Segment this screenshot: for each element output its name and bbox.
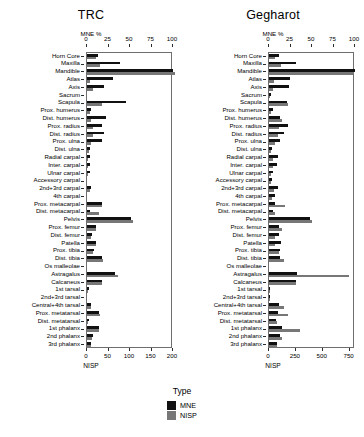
y-axis-tick (81, 56, 84, 57)
y-axis-tick (81, 212, 84, 213)
legend-entry[interactable]: MNE (167, 401, 197, 410)
axis-tick (322, 348, 323, 351)
bar-nisp (269, 282, 296, 285)
y-axis-category-label: Ulnar carpal (180, 170, 262, 176)
y-axis-tick (263, 173, 266, 174)
y-axis-category-label: Pelvis (180, 216, 262, 222)
y-axis-tick (263, 149, 266, 150)
y-axis-tick (263, 134, 266, 135)
y-axis-tick (81, 235, 84, 236)
bar-nisp (269, 337, 282, 340)
axis-bottom-label-trc: NISP (0, 362, 182, 369)
y-axis-tick (81, 134, 84, 135)
y-axis-category-label: Accessory carpal (180, 177, 262, 183)
bars-gegharot (269, 53, 353, 347)
y-axis-tick (81, 344, 84, 345)
y-axis-category-label: Dist. metacarpal (0, 208, 80, 214)
bar-nisp (269, 88, 273, 91)
bar-nisp (269, 212, 275, 215)
bar-nisp (87, 228, 96, 231)
y-axis-category-label: Dist. tibia (180, 255, 262, 261)
y-axis-tick (81, 243, 84, 244)
bar-nisp (87, 158, 88, 161)
legend-entry[interactable]: NISP (167, 411, 197, 420)
y-axis-category-label: Inter. carpal (0, 162, 80, 168)
y-axis-tick (263, 321, 266, 322)
y-axis-tick (263, 142, 266, 143)
y-axis-tick (81, 95, 84, 96)
axis-tick-label: 250 (282, 352, 308, 359)
bar-nisp (269, 244, 275, 247)
bar-nisp (87, 166, 88, 169)
y-axis-tick (81, 103, 84, 104)
y-axis-category-label: Prox. metatarsal (0, 310, 80, 316)
y-axis-category-label: 3rd phalanx (180, 341, 262, 347)
y-axis-tick (81, 251, 84, 252)
y-axis-category-label: Prox. radius (180, 123, 262, 129)
y-axis-category-label: 2nd+3rd tarsal (0, 294, 80, 300)
y-axis-tick (81, 173, 84, 174)
y-axis-category-label: Ulnar carpal (0, 170, 80, 176)
y-axis-tick (81, 165, 84, 166)
bar-nisp (269, 166, 273, 169)
legend-title: Type (0, 386, 364, 396)
legend-label: MNE (180, 401, 196, 410)
y-axis-tick (81, 71, 84, 72)
y-axis-tick (81, 181, 84, 182)
y-axis-tick (81, 329, 84, 330)
y-axis-tick (81, 149, 84, 150)
y-axis-category-label: Calcaneus (180, 279, 262, 285)
axis-tick (172, 348, 173, 351)
y-axis-category-label: Dist. tibia (0, 255, 80, 261)
bar-nisp (269, 103, 288, 106)
y-axis-labels-gegharot: Horn CoreMaxillaMandibleAtlasAxisSacrumS… (182, 52, 266, 348)
y-axis-category-label: Prox. humerus (180, 107, 262, 113)
figure-root: TRC MNE % 0255075100 Horn CoreMaxillaMan… (0, 0, 364, 437)
y-axis-category-label: Dist. humerus (180, 115, 262, 121)
bar-nisp (269, 119, 282, 122)
y-axis-tick (263, 95, 266, 96)
bar-nisp (87, 236, 91, 239)
y-axis-tick (263, 305, 266, 306)
y-axis-category-label: Dist. radius (180, 131, 262, 137)
y-axis-category-label: Astragalus (0, 271, 80, 277)
bar-nisp (269, 127, 279, 130)
bottom-tick-labels-gegharot: 0250500750 (268, 352, 354, 361)
axis-tick (268, 44, 269, 47)
y-axis-category-label: Dist. femur (180, 232, 262, 238)
y-axis-category-label: Inter. carpal (180, 162, 262, 168)
y-axis-tick (81, 64, 84, 65)
legend-label: NISP (180, 411, 197, 420)
bar-nisp (269, 64, 281, 67)
y-axis-category-label: 2nd phalanx (0, 333, 80, 339)
bars-trc (87, 53, 171, 347)
y-axis-tick (263, 336, 266, 337)
y-axis-category-label: 4th carpal (0, 193, 80, 199)
y-axis-category-label: 2nd+3rd tarsal (180, 294, 262, 300)
bar-nisp (87, 150, 89, 153)
bar-nisp (87, 57, 96, 60)
y-axis-tick (263, 219, 266, 220)
axis-tick (295, 348, 296, 351)
y-axis-tick (81, 110, 84, 111)
y-axis-tick (81, 313, 84, 314)
y-axis-tick (81, 157, 84, 158)
y-axis-tick (81, 274, 84, 275)
bar-nisp (269, 80, 274, 83)
y-axis-category-label: Dist. ulna (180, 146, 262, 152)
bar-nisp (269, 197, 272, 200)
y-axis-tick (81, 126, 84, 127)
axis-tick (108, 348, 109, 351)
panel-gegharot: Gegharot MNE % 0255075100 Horn CoreMaxil… (182, 0, 364, 380)
bar-nisp (269, 134, 278, 137)
top-tick-labels-gegharot: 0255075100 (268, 35, 354, 44)
y-axis-category-label: Dist. radius (0, 131, 80, 137)
bar-nisp (269, 72, 354, 75)
bar-nisp (87, 220, 133, 223)
bar-nisp (269, 142, 275, 145)
axis-tick (151, 348, 152, 351)
y-axis-tick (263, 297, 266, 298)
y-axis-category-label: Atlas (180, 76, 262, 82)
y-axis-tick (263, 157, 266, 158)
bar-nisp (269, 111, 271, 114)
